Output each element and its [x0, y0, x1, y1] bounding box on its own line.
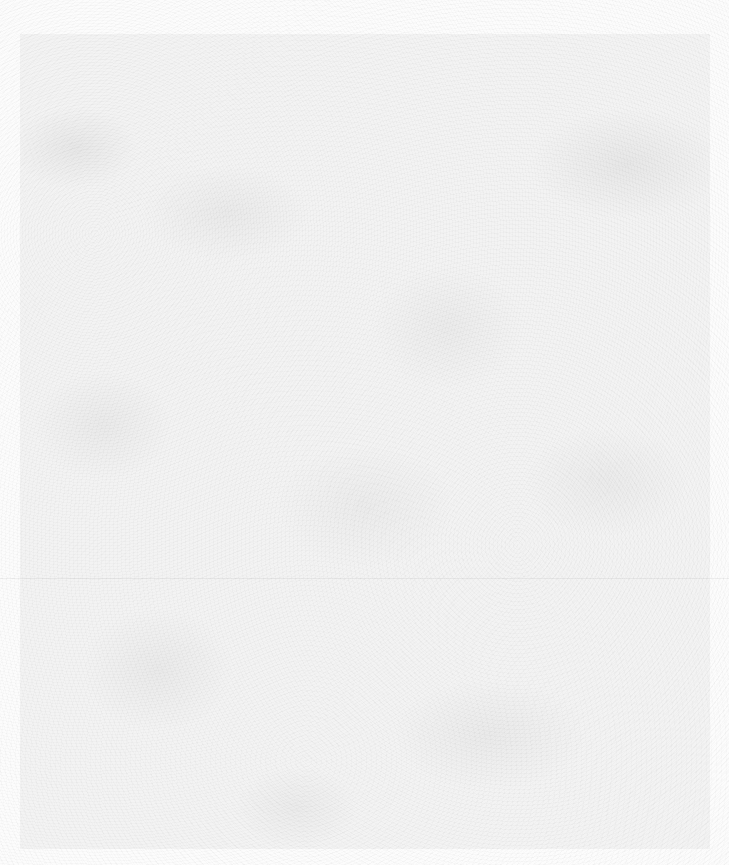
paper-fold-line: [0, 578, 729, 579]
scanned-paper-area: [20, 34, 710, 849]
blank-document-page: [0, 0, 729, 865]
